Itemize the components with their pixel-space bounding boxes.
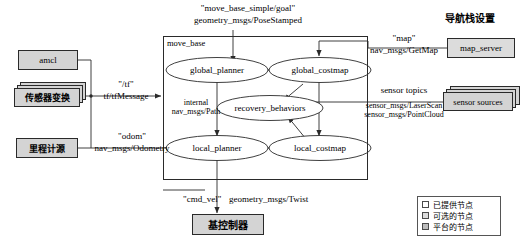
map-topic-label: "map": [393, 34, 416, 44]
node-amcl: amcl: [18, 50, 78, 70]
navigation-stack-diagram: move_base global_planner global_costmap …: [0, 0, 528, 250]
node-map-server: map_server: [447, 38, 515, 58]
node-label-map-server: map_server: [460, 43, 502, 53]
goal-topic-label: "move_base_simple/goal": [201, 4, 295, 14]
move-base-label: move_base: [167, 38, 205, 48]
sensor-type-pointcloud-label: sensor_msgs/PointCloud: [364, 111, 444, 120]
node-label-tf-transform: 传感器变换: [25, 91, 70, 104]
diagram-title: 导航栈设置: [445, 14, 495, 25]
stack-sheet-front: 传感器变换: [14, 88, 80, 107]
node-label-odometry-source: 里程计源: [29, 142, 65, 155]
tf-topic-label: "/tf": [118, 80, 133, 90]
legend-label-optional: 可选的节点: [433, 210, 473, 221]
internal-path-label-line2: nav_msgs/Path: [172, 108, 220, 117]
goal-type-label: geometry_msgs/PoseStamped: [194, 16, 302, 26]
node-base-controller: 基控制器: [192, 214, 264, 235]
node-odometry-source: 里程计源: [16, 138, 78, 158]
legend-swatch-optional: [422, 212, 429, 219]
legend: 已提供节点 可选的节点 平台的节点: [417, 196, 501, 236]
tf-type-label: tf/tfMessage: [104, 92, 149, 102]
legend-item: 可选的节点: [422, 210, 496, 221]
map-type-label: nav_msgs/GetMap: [370, 46, 438, 56]
sensor-topics-label: sensor topics: [381, 86, 428, 96]
node-label-amcl: amcl: [39, 55, 57, 65]
legend-item: 已提供节点: [422, 199, 496, 210]
legend-label-provided: 已提供节点: [433, 199, 473, 210]
legend-swatch-provided: [422, 201, 429, 208]
odom-type-label: nav_msgs/Odometry: [95, 144, 170, 154]
node-sensor-sources: sensor sources: [443, 86, 521, 114]
node-label-base-controller: 基控制器: [208, 217, 248, 232]
legend-label-platform: 平台的节点: [433, 221, 473, 232]
legend-swatch-platform: [422, 223, 429, 230]
node-label-sensor-sources: sensor sources: [453, 97, 502, 107]
cmd-vel-type-label: geometry_msgs/Twist: [229, 195, 308, 205]
odom-topic-label: "odom": [118, 132, 146, 142]
stack-sheet-front: sensor sources: [443, 92, 513, 111]
cmd-vel-topic-label: "cmd_vel": [183, 195, 221, 205]
legend-item: 平台的节点: [422, 221, 496, 232]
node-tf-transform: 传感器变换: [14, 82, 86, 108]
